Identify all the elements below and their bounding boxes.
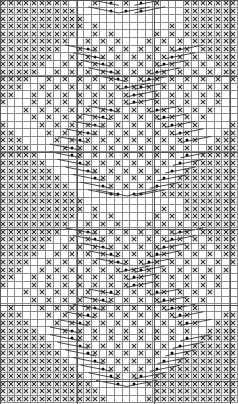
- empty-cell: [23, 114, 31, 122]
- empty-cell: [192, 327, 200, 335]
- cross-stitch-cell: [69, 365, 77, 373]
- empty-cell: [31, 122, 39, 130]
- cross-stitch-cell: [207, 236, 215, 244]
- bobble-dot-cell: [84, 46, 92, 54]
- empty-cell: [107, 15, 115, 23]
- empty-cell: [15, 297, 23, 305]
- cross-stitch-cell: [123, 183, 131, 191]
- cross-stitch-cell: [8, 198, 16, 206]
- cross-stitch-cell: [215, 8, 223, 16]
- cross-stitch-cell: [153, 46, 161, 54]
- cross-stitch-cell: [92, 259, 100, 267]
- empty-cell: [176, 91, 184, 99]
- cross-stitch-cell: [38, 289, 46, 297]
- cross-stitch-cell: [207, 221, 215, 229]
- cross-stitch-cell: [100, 175, 108, 183]
- cross-stitch-cell: [69, 122, 77, 130]
- empty-cell: [38, 251, 46, 259]
- empty-cell: [100, 167, 108, 175]
- cross-stitch-cell: [146, 342, 154, 350]
- cross-stitch-cell: [69, 53, 77, 61]
- empty-cell: [153, 205, 161, 213]
- cross-stitch-cell: [107, 350, 115, 358]
- bobble-dot-cell: [146, 259, 154, 267]
- bobble-dot-cell: [161, 244, 169, 252]
- cross-stitch-cell: [92, 46, 100, 54]
- empty-cell: [115, 396, 123, 404]
- empty-cell: [61, 236, 69, 244]
- empty-cell: [54, 76, 62, 84]
- empty-cell: [215, 266, 223, 274]
- cross-stitch-cell: [61, 183, 69, 191]
- cross-stitch-cell: [161, 38, 169, 46]
- empty-cell: [100, 274, 108, 282]
- cross-stitch-cell: [199, 388, 207, 396]
- empty-cell: [115, 327, 123, 335]
- empty-cell: [100, 145, 108, 153]
- cross-stitch-cell: [0, 84, 8, 92]
- cross-stitch-cell: [199, 61, 207, 69]
- cross-stitch-cell: [161, 251, 169, 259]
- empty-cell: [23, 266, 31, 274]
- cross-stitch-cell: [0, 350, 8, 358]
- cross-stitch-cell: [8, 213, 16, 221]
- cross-stitch-cell: [215, 327, 223, 335]
- empty-cell: [130, 129, 138, 137]
- major-gridline: [0, 381, 238, 382]
- empty-cell: [130, 312, 138, 320]
- cross-stitch-cell: [31, 244, 39, 252]
- cross-stitch-cell: [138, 259, 146, 267]
- cross-stitch-cell: [207, 289, 215, 297]
- cross-stitch-cell: [61, 297, 69, 305]
- cross-stitch-cell: [69, 373, 77, 381]
- empty-cell: [130, 213, 138, 221]
- empty-cell: [54, 259, 62, 267]
- empty-cell: [123, 213, 131, 221]
- cross-stitch-cell: [69, 388, 77, 396]
- cross-stitch-cell: [54, 122, 62, 130]
- cross-stitch-cell: [77, 274, 85, 282]
- empty-cell: [38, 76, 46, 84]
- cross-stitch-cell: [169, 129, 177, 137]
- cross-stitch-cell: [77, 205, 85, 213]
- empty-cell: [176, 167, 184, 175]
- empty-cell: [146, 99, 154, 107]
- empty-cell: [77, 38, 85, 46]
- cross-stitch-cell: [199, 259, 207, 267]
- cross-stitch-cell: [222, 0, 230, 8]
- cross-stitch-cell: [199, 30, 207, 38]
- empty-cell: [107, 388, 115, 396]
- cross-stitch-cell: [15, 373, 23, 381]
- cross-stitch-cell: [8, 0, 16, 8]
- cross-stitch-cell: [69, 396, 77, 404]
- empty-cell: [207, 137, 215, 145]
- cross-stitch-cell: [69, 15, 77, 23]
- empty-cell: [138, 358, 146, 366]
- cross-stitch-cell: [153, 259, 161, 267]
- cross-stitch-cell: [199, 198, 207, 206]
- cross-stitch-cell: [199, 114, 207, 122]
- cross-stitch-cell: [222, 312, 230, 320]
- cross-stitch-cell: [146, 358, 154, 366]
- cross-stitch-cell: [138, 350, 146, 358]
- cross-stitch-cell: [77, 129, 85, 137]
- cross-stitch-cell: [84, 160, 92, 168]
- empty-cell: [84, 358, 92, 366]
- empty-cell: [23, 282, 31, 290]
- bobble-dot-cell: [92, 175, 100, 183]
- cross-stitch-cell: [84, 221, 92, 229]
- bobble-dot-cell: [107, 190, 115, 198]
- empty-cell: [199, 327, 207, 335]
- empty-cell: [153, 38, 161, 46]
- empty-cell: [69, 76, 77, 84]
- cross-stitch-cell: [138, 76, 146, 84]
- cross-stitch-cell: [100, 221, 108, 229]
- cross-stitch-cell: [153, 99, 161, 107]
- empty-cell: [84, 8, 92, 16]
- cross-stitch-cell: [222, 145, 230, 153]
- empty-cell: [54, 145, 62, 153]
- cross-stitch-cell: [31, 8, 39, 16]
- empty-cell: [146, 335, 154, 343]
- empty-cell: [38, 282, 46, 290]
- empty-cell: [84, 274, 92, 282]
